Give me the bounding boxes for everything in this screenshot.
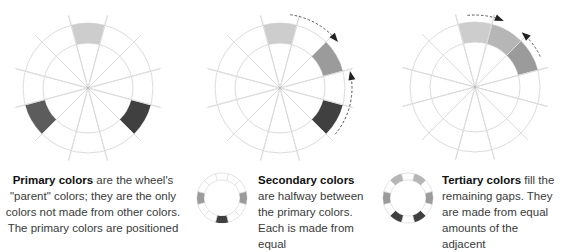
wheel-segment xyxy=(71,23,105,45)
secondary-colors-caption: Secondary colors are halfway between the… xyxy=(258,172,370,252)
wheel-center xyxy=(474,86,476,88)
secondary-colors-title: Secondary colors xyxy=(258,174,355,186)
wheel-center xyxy=(87,87,89,89)
tertiary-colors-title: Tertiary colors xyxy=(442,174,521,186)
wheel-inner-ring xyxy=(204,180,240,216)
wheel-segment xyxy=(263,23,297,45)
wheel-segment xyxy=(458,22,492,44)
wheel-segment xyxy=(383,192,391,205)
wheel-divider xyxy=(204,211,209,216)
secondary-colors-text: are halfway between the primary colors. … xyxy=(258,190,363,250)
wheel-segment xyxy=(25,100,56,134)
wheel-segment xyxy=(239,192,247,205)
arrowhead-icon xyxy=(348,71,355,81)
wheel-divider xyxy=(216,174,218,181)
wheel-segment xyxy=(120,100,151,134)
wheel-center xyxy=(279,87,281,89)
primary-colors-title: Primary colors xyxy=(13,174,94,186)
secondary-top-dashed-arc xyxy=(290,15,336,41)
wheel-segment xyxy=(197,192,205,205)
wheel-divider xyxy=(235,180,240,185)
wheel-divider xyxy=(235,211,240,216)
wheel-segment xyxy=(312,42,343,76)
wheel-segment xyxy=(216,215,229,223)
wheel-divider xyxy=(227,174,229,181)
wheel-divider xyxy=(204,180,209,185)
wheel-segment xyxy=(425,192,433,205)
wheel-segment xyxy=(312,100,343,134)
arrowhead-icon xyxy=(494,14,504,21)
primary-colors-caption: Primary colors are the wheel's "parent" … xyxy=(0,172,186,236)
wheel-inner-ring xyxy=(390,180,426,216)
tertiary-colors-caption: Tertiary colors fill the remaining gaps.… xyxy=(442,172,563,252)
